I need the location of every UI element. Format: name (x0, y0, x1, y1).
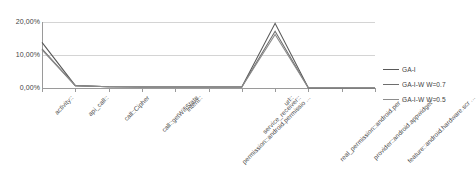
series-line-ga-i-w-05 (42, 34, 375, 88)
legend-item-label: GA-I-W W=0.5 (402, 96, 446, 103)
legend-item-label: GA-I (402, 66, 416, 73)
y-axis-labels: 20,00% 10,00% 0,00% (0, 0, 40, 184)
series-line-ga-i (42, 23, 375, 88)
series-line-ga-i-w-07 (42, 31, 375, 88)
legend-line-swatch (383, 99, 399, 100)
legend-item[interactable]: GA-I (383, 62, 459, 77)
series-svg (42, 22, 375, 88)
x-axis-tick (242, 88, 243, 92)
x-axis-tick (75, 88, 76, 92)
x-axis-tick-label: call::Cipher (122, 94, 150, 122)
x-axis-tick (275, 88, 276, 92)
legend-line-swatch (383, 84, 399, 85)
x-axis-tick (342, 88, 343, 92)
x-axis-tick-label: api_call:: (87, 94, 110, 117)
x-axis-tick (175, 88, 176, 92)
x-axis-tick-label: permission::android.permissio ... (240, 94, 311, 165)
x-axis-tick-label: activity:: (53, 94, 75, 116)
legend-item[interactable]: GA-I-W W=0.5 (383, 92, 459, 107)
chart-legend: GA-IGA-I-W W=0.7GA-I-W W=0.5 (383, 62, 459, 107)
x-axis-tick (42, 88, 43, 92)
x-axis-tick (142, 88, 143, 92)
legend-item-label: GA-I-W W=0.7 (402, 81, 446, 88)
x-axis-tick (209, 88, 210, 92)
y-axis-tick-label: 20,00% (2, 18, 40, 25)
legend-line-swatch (383, 69, 399, 70)
legend-item[interactable]: GA-I-W W=0.7 (383, 77, 459, 92)
series-container (42, 22, 375, 88)
x-axis-tick (375, 88, 376, 92)
x-axis-tick (109, 88, 110, 92)
x-axis-tick-label: intent:: (185, 94, 204, 113)
x-axis-tick (308, 88, 309, 92)
y-axis-tick-label: 10,00% (2, 51, 40, 58)
y-axis-tick-label: 0,00% (2, 84, 40, 91)
